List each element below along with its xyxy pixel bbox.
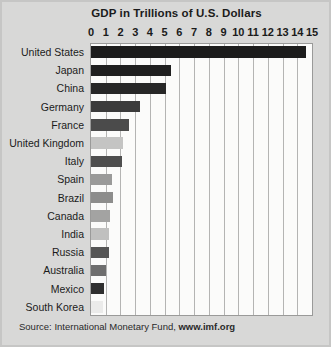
category-label: Japan [0,61,84,79]
x-tick-label: 14 [291,26,303,38]
bar [91,65,171,77]
bar [91,119,129,131]
bar [91,247,109,259]
x-tick-label: 10 [232,26,244,38]
x-tick-label: 12 [262,26,274,38]
x-tick-label: 13 [276,26,288,38]
bar-row: Russia [0,243,331,261]
bar-row: India [0,225,331,243]
category-label: Canada [0,207,84,225]
category-label: France [0,116,84,134]
category-label: India [0,225,84,243]
source-note: Source: International Monetary Fund, www… [19,321,235,332]
category-label: Spain [0,170,84,188]
bar [91,101,140,113]
bar-track [91,261,312,279]
source-prefix: Source: International Monetary Fund, [19,321,176,332]
bar-row: Italy [0,152,331,170]
x-tick-label: 1 [103,26,109,38]
x-tick-label: 0 [88,26,94,38]
bar-row: Brazil [0,189,331,207]
bar-row: Spain [0,170,331,188]
bar-track [91,243,312,261]
bar-track [91,134,312,152]
bar-track [91,280,312,298]
bar-rows: United StatesJapanChinaGermanyFranceUnit… [0,43,331,316]
bar-row: France [0,116,331,134]
category-label: China [0,79,84,97]
bar-row: China [0,79,331,97]
bar [91,156,122,168]
bar-row: United Kingdom [0,134,331,152]
x-tick-label: 6 [176,26,182,38]
bar [91,83,166,95]
x-tick-label: 8 [206,26,212,38]
category-label: Brazil [0,189,84,207]
bar-row: Canada [0,207,331,225]
bar [91,283,104,295]
bar [91,265,106,277]
x-tick-label: 9 [221,26,227,38]
category-label: Germany [0,98,84,116]
category-label: United States [0,43,84,61]
bar-track [91,98,312,116]
bar [91,210,110,222]
chart-title: GDP in Trillions of U.S. Dollars [0,7,331,19]
bar-track [91,207,312,225]
x-tick-label: 2 [117,26,123,38]
x-tick-label: 15 [306,26,318,38]
bar-track [91,43,312,61]
category-label: United Kingdom [0,134,84,152]
x-tick-label: 4 [147,26,153,38]
bar [91,301,103,313]
bar-track [91,170,312,188]
category-label: Russia [0,243,84,261]
bar-row: Japan [0,61,331,79]
x-tick-label: 3 [132,26,138,38]
bar [91,174,112,186]
bar-row: Germany [0,98,331,116]
x-axis-tick-labels: 0123456789101112131415 [90,26,313,41]
bar-track [91,189,312,207]
source-url[interactable]: www.imf.org [178,321,235,332]
gdp-bar-chart-figure: GDP in Trillions of U.S. Dollars 0123456… [0,0,331,347]
bar-track [91,116,312,134]
bar-row: United States [0,43,331,61]
x-tick-label: 11 [247,26,259,38]
bar-track [91,298,312,316]
bar-track [91,225,312,243]
bar-track [91,79,312,97]
category-label: Australia [0,261,84,279]
bar-track [91,152,312,170]
bar [91,192,113,204]
bar-track [91,61,312,79]
bar [91,46,306,58]
x-tick-label: 7 [191,26,197,38]
bar [91,228,109,240]
bar [91,137,123,149]
x-tick-label: 5 [162,26,168,38]
bar-row: Mexico [0,280,331,298]
bar-row: South Korea [0,298,331,316]
figure-edge-top [0,0,331,2]
category-label: Italy [0,152,84,170]
category-label: South Korea [0,298,84,316]
category-label: Mexico [0,280,84,298]
bar-row: Australia [0,261,331,279]
